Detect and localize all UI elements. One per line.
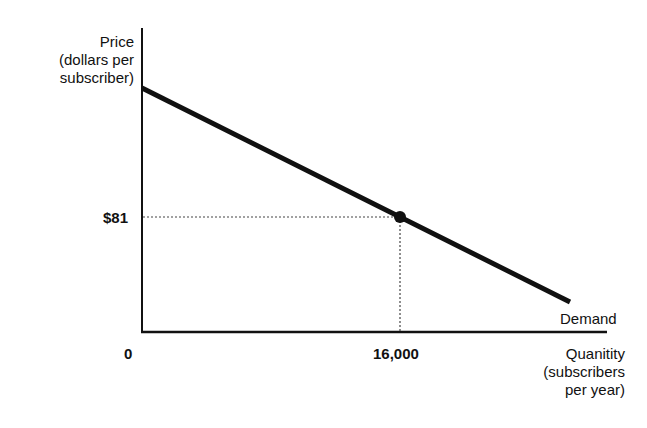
x-axis-label-line: (subscribers [520, 363, 625, 381]
equilibrium-point [394, 211, 406, 223]
y-tick-81: $81 [103, 209, 128, 226]
y-axis-label-line: (dollars per [0, 51, 134, 69]
x-axis-label-line: per year) [520, 381, 625, 399]
y-axis-label-line: Price [0, 33, 134, 51]
x-tick-16000: 16,000 [373, 345, 419, 362]
y-axis-label: Price (dollars per subscriber) [0, 33, 134, 87]
origin-label: 0 [124, 345, 132, 362]
y-axis-label-line: subscriber) [0, 69, 134, 87]
demand-label: Demand [560, 310, 617, 327]
x-axis-label: Quanitity (subscribers per year) [520, 345, 625, 399]
x-axis-label-line: Quanitity [520, 345, 625, 363]
demand-curve [142, 88, 570, 302]
